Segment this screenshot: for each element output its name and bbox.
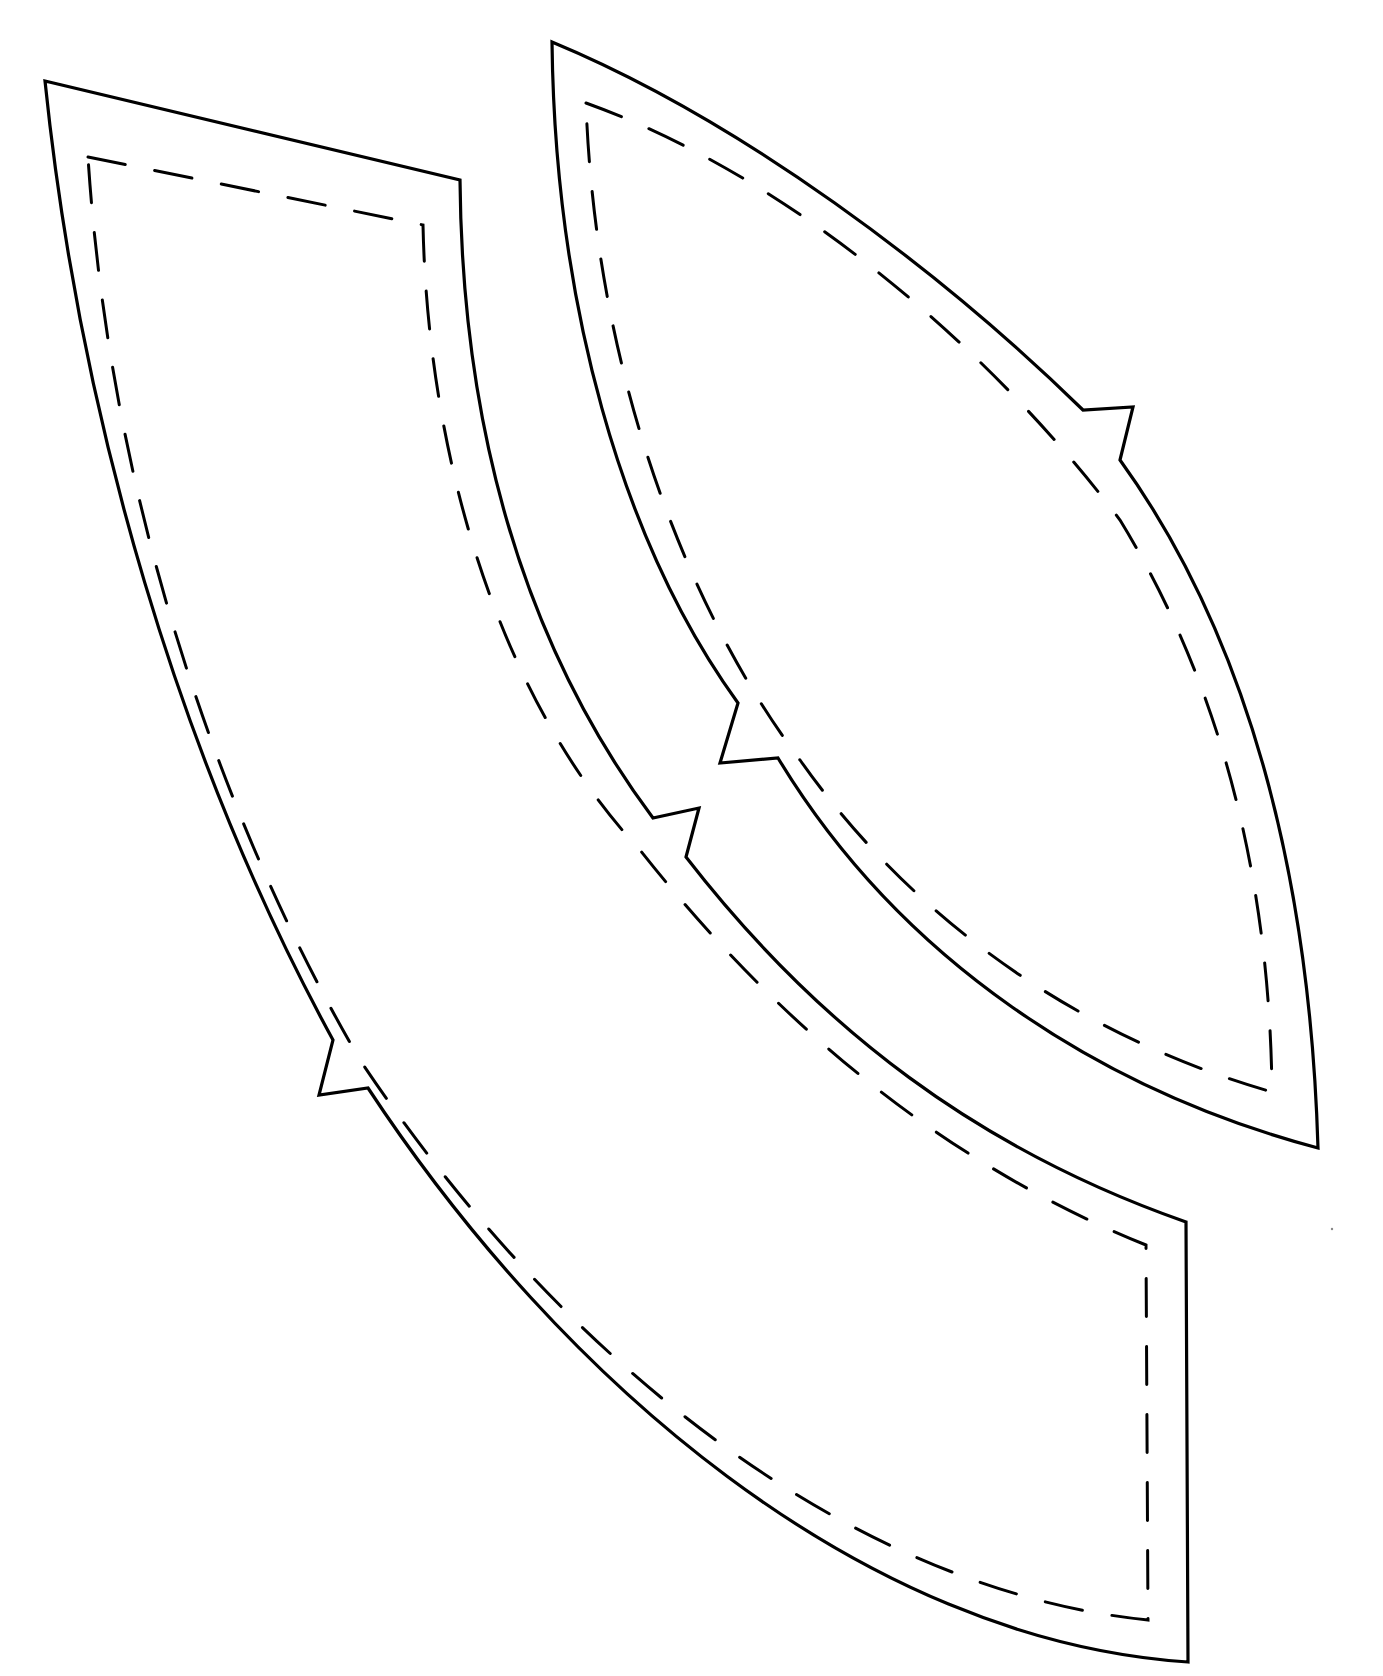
pattern-diagram xyxy=(0,0,1383,1676)
paper-speck xyxy=(1331,1228,1333,1230)
